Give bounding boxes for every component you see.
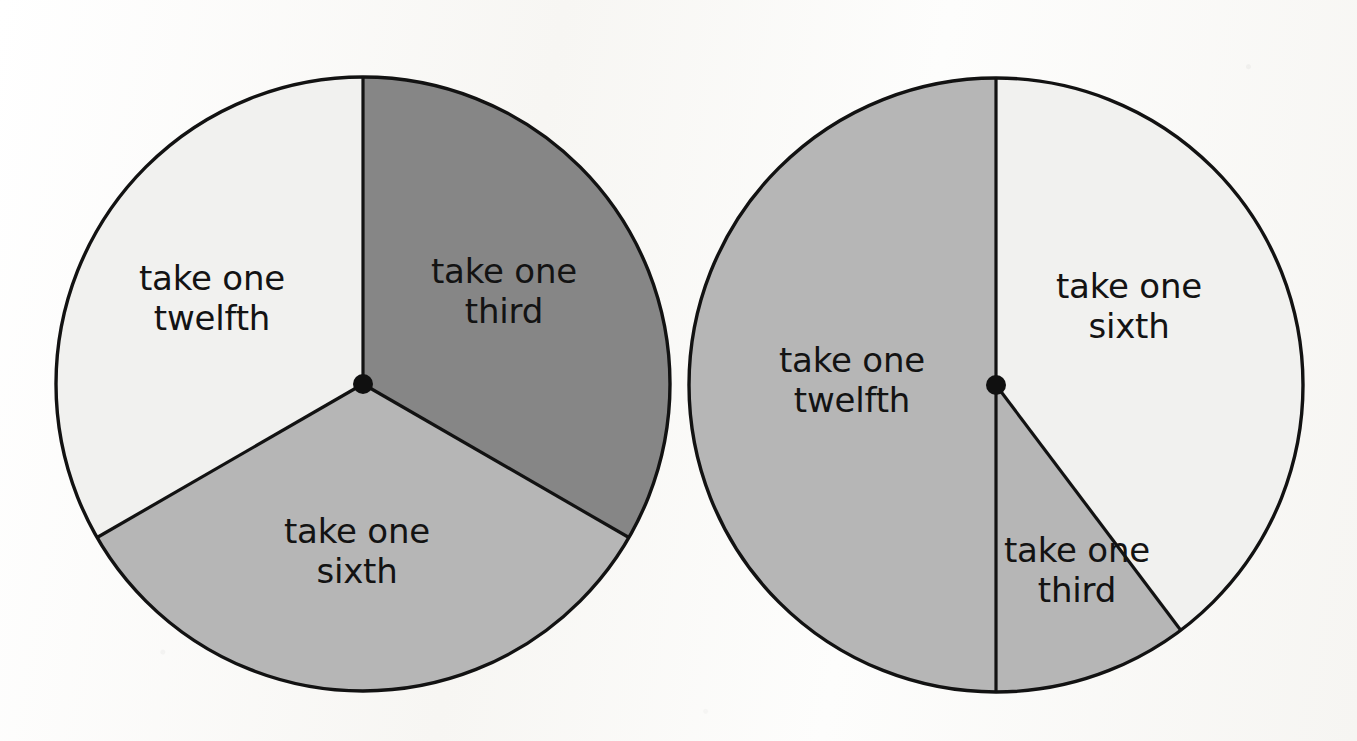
- right-spinner: [0, 0, 1357, 741]
- right-spinner-hub: [986, 375, 1006, 395]
- spinner-figure: take one third take one sixth take one t…: [0, 0, 1357, 741]
- right-sector-take-one-twelfth[interactable]: [689, 78, 996, 692]
